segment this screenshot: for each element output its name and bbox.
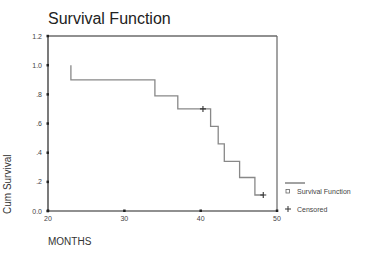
- x-tick-label: 20: [44, 215, 52, 222]
- x-tick-label: 30: [120, 215, 128, 222]
- x-tick-label: 50: [273, 215, 281, 222]
- censored-markers: [200, 106, 266, 198]
- y-tick-label: 1.0: [32, 62, 42, 69]
- axes: 0.0.2.4.6.81.01.220304050: [32, 33, 281, 223]
- plus-marker-icon: [285, 206, 291, 212]
- y-tick: [47, 35, 50, 38]
- y-tick: [47, 122, 50, 125]
- square-marker-icon: [286, 190, 290, 194]
- censored-plus-icon: [200, 106, 206, 112]
- x-tick: [123, 210, 126, 213]
- x-tick: [47, 210, 50, 213]
- y-tick-label: .6: [36, 120, 42, 127]
- y-tick-label: 1.2: [32, 33, 42, 40]
- x-tick: [276, 210, 279, 213]
- survival-chart: 0.0.2.4.6.81.01.220304050 Survival Funct…: [0, 0, 382, 262]
- y-tick: [47, 181, 50, 184]
- legend-label-survival: Survival Function: [297, 188, 351, 195]
- y-tick-label: .2: [36, 178, 42, 185]
- y-tick: [47, 151, 50, 154]
- y-tick: [47, 93, 50, 96]
- y-tick: [47, 64, 50, 67]
- legend-label-censored: Censored: [297, 206, 327, 213]
- y-tick-label: 0.0: [32, 208, 42, 215]
- survival-step-line: [71, 65, 263, 195]
- legend: Survival FunctionCensored: [285, 183, 351, 213]
- censored-plus-icon: [260, 192, 266, 198]
- x-tick-label: 40: [197, 215, 205, 222]
- y-tick-label: .8: [36, 91, 42, 98]
- x-tick: [199, 210, 202, 213]
- survival-curve: [71, 65, 263, 195]
- y-tick-label: .4: [36, 149, 42, 156]
